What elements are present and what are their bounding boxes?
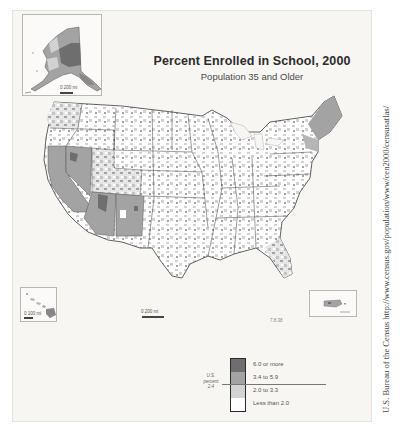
legend-swatches (230, 358, 246, 412)
legend-label: 6.0 or more (253, 361, 284, 367)
legend-swatch-6-or-more (231, 359, 245, 372)
map-subtitle: Population 35 and Older (132, 71, 372, 82)
hawaii-inset: 0 100 mi (20, 287, 57, 322)
hawaii-scale-label: 0 100 mi (24, 311, 41, 316)
alaska-inset: 0 200 mi (22, 14, 102, 96)
legend-label: 2.0 to 3.3 (253, 387, 278, 393)
us-percent-reference: U.S. percent 2.4 (200, 373, 222, 390)
main-scale-label: 0 200 mi (141, 309, 158, 314)
legend-swatch-less-than-2 (231, 398, 245, 411)
hawaii-scale-bar (24, 317, 33, 319)
corner-note: 7.8.38 (270, 318, 283, 323)
legend-swatch-2-0-to-3-3 (231, 385, 245, 398)
main-scale-bar (142, 316, 164, 318)
legend-label: 3.4 to 5.9 (253, 374, 278, 380)
source-credit: U.S. Bureau of the Census http://www.cen… (381, 106, 391, 413)
puerto-rico-map (310, 291, 358, 318)
us-percent-value: 2.4 (200, 384, 222, 390)
us-reference-line (222, 384, 326, 385)
puerto-rico-inset (309, 290, 357, 317)
us-choropleth-map (12, 88, 372, 318)
legend-label: Less than 2.0 (253, 400, 289, 406)
map-title: Percent Enrolled in School, 2000 (132, 54, 372, 68)
